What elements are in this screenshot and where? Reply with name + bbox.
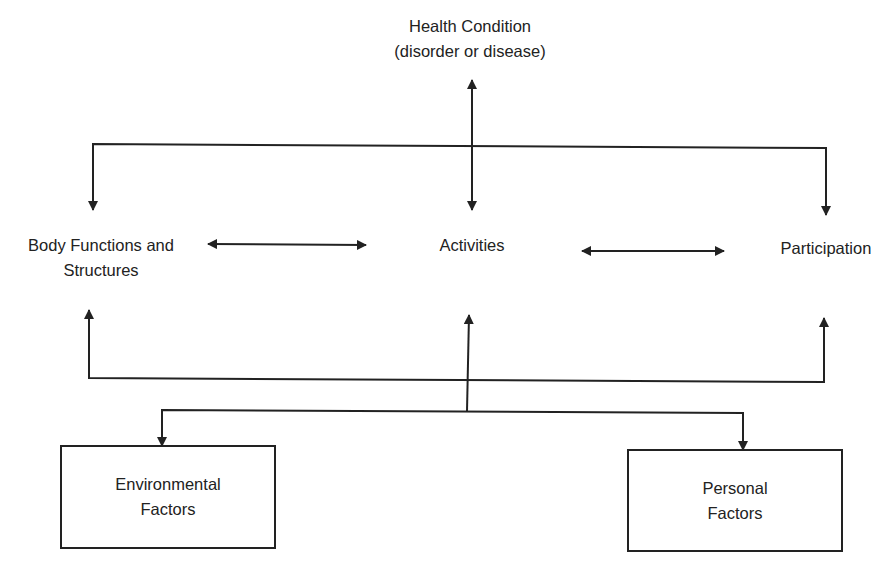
body-functions-line2: Structures: [10, 258, 192, 283]
health-condition-subtitle: (disorder or disease): [370, 39, 570, 64]
line-context-bracket: [89, 310, 824, 382]
icf-diagram: Health Condition (disorder or disease) B…: [0, 0, 884, 563]
environmental-factors-text: Environmental Factors: [115, 472, 220, 522]
node-body-functions: Body Functions and Structures: [10, 233, 192, 283]
participation-label: Participation: [766, 236, 884, 261]
environmental-factors-line2: Factors: [115, 497, 220, 522]
health-condition-title: Health Condition: [370, 14, 570, 39]
node-environmental-factors: Environmental Factors: [60, 445, 276, 549]
node-personal-factors: Personal Factors: [627, 449, 843, 552]
activities-label: Activities: [420, 233, 524, 258]
node-participation: Participation: [766, 236, 884, 261]
personal-factors-line1: Personal: [702, 476, 767, 501]
line-factors-bracket: [162, 410, 743, 449]
node-health-condition: Health Condition (disorder or disease): [370, 14, 570, 64]
node-activities: Activities: [420, 233, 524, 258]
body-functions-line1: Body Functions and: [10, 233, 192, 258]
environmental-factors-line1: Environmental: [115, 472, 220, 497]
personal-factors-text: Personal Factors: [702, 476, 767, 526]
arrow-factors-activities: [467, 315, 469, 411]
arrow-body-activities: [208, 244, 366, 245]
line-health-bracket: [93, 144, 826, 215]
personal-factors-line2: Factors: [702, 501, 767, 526]
